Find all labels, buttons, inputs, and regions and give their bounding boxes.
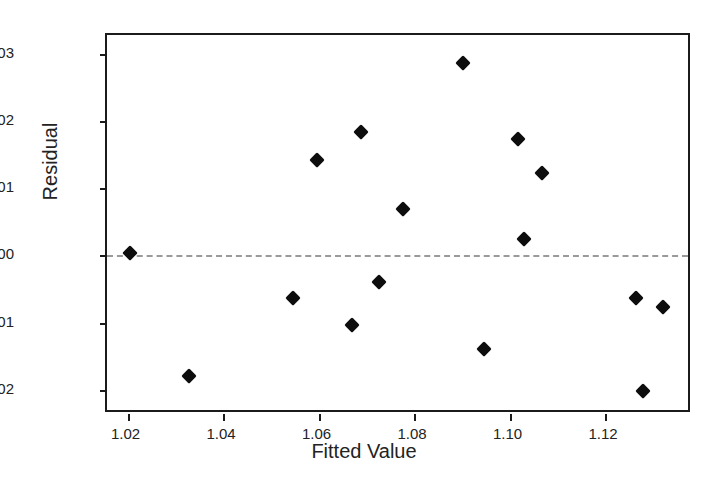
x-tick: [223, 414, 225, 421]
x-tick-label: 1.06: [282, 426, 352, 441]
residual-plot-figure: 0.030.020.010.00-0.01-0.02 1.021.041.061…: [0, 0, 728, 479]
x-tick: [319, 414, 321, 421]
x-tick-label: 1.10: [473, 426, 543, 441]
y-tick-label: -0.02: [0, 381, 14, 396]
data-point: [476, 342, 492, 358]
data-point: [628, 290, 644, 306]
data-point: [656, 299, 672, 315]
y-tick: [100, 121, 107, 123]
data-point: [122, 246, 138, 262]
x-tick-label: 1.02: [91, 426, 161, 441]
data-point: [181, 369, 197, 385]
data-point: [353, 125, 369, 141]
y-tick-label: 0.00: [0, 246, 14, 261]
y-tick: [100, 188, 107, 190]
x-tick-label: 1.08: [377, 426, 447, 441]
y-tick-label: 0.02: [0, 112, 14, 127]
x-tick: [510, 414, 512, 421]
data-point: [534, 166, 550, 182]
data-point: [285, 291, 301, 307]
data-point: [309, 152, 325, 168]
data-point: [517, 232, 533, 248]
y-axis-title: Residual: [39, 52, 62, 272]
data-point: [344, 317, 360, 333]
data-point: [395, 201, 411, 217]
zero-reference-line: [107, 255, 688, 257]
y-tick: [100, 255, 107, 257]
x-tick: [605, 414, 607, 421]
x-tick: [128, 414, 130, 421]
y-tick-label: 0.01: [0, 179, 14, 194]
y-tick-label: 0.03: [0, 45, 14, 60]
data-point: [371, 275, 387, 291]
y-tick: [100, 323, 107, 325]
data-point: [510, 131, 526, 147]
y-tick: [100, 390, 107, 392]
x-axis-title: Fitted Value: [0, 440, 728, 463]
y-tick: [100, 54, 107, 56]
x-tick: [414, 414, 416, 421]
x-tick-label: 1.04: [186, 426, 256, 441]
y-tick-label: -0.01: [0, 314, 14, 329]
plot-area: [105, 33, 690, 412]
data-point: [636, 383, 652, 399]
x-tick-label: 1.12: [568, 426, 638, 441]
data-point: [455, 55, 471, 71]
